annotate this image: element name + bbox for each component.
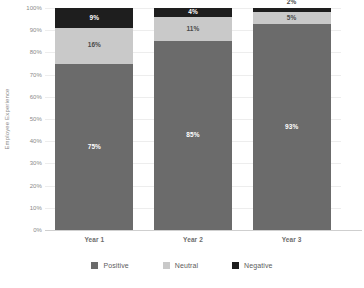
legend-swatch-icon [163,262,170,269]
legend-label: Negative [244,262,272,269]
bar-segment[interactable]: 75% [55,64,133,231]
legend-swatch-icon [232,262,239,269]
stacked-bar-chart: Employee Experience 0%10%20%30%40%50%60%… [0,0,364,288]
y-axis-tick-label: 70% [30,72,42,78]
y-axis-tick-labels: 0%10%20%30%40%50%60%70%80%90%100% [16,8,42,230]
y-axis-tick-label: 10% [30,205,42,211]
bar-segment[interactable]: 5% [253,12,331,23]
bar-segment[interactable]: 16% [55,28,133,64]
bar-segment[interactable]: 4% [154,8,232,17]
bar-segment[interactable]: 11% [154,17,232,41]
plot-wrapper: 0%10%20%30%40%50%60%70%80%90%100% 9%16%7… [16,8,350,238]
bar-group[interactable]: 4%11%85% [154,8,232,230]
y-axis-tick-label: 100% [26,5,42,11]
legend-item[interactable]: Neutral [163,262,198,269]
y-axis-title: Employee Experience [0,0,14,238]
bar-segment[interactable]: 93% [253,24,331,230]
y-axis-title-text: Employee Experience [4,88,10,149]
x-axis-tick-label: Year 2 [183,236,203,243]
bar-segment-label: 9% [90,15,100,22]
y-axis-tick-label: 60% [30,94,42,100]
y-axis-tick-label: 80% [30,49,42,55]
x-axis-line [45,230,362,231]
legend-label: Neutral [175,262,198,269]
y-axis-tick-label: 30% [30,160,42,166]
x-axis-tick-label: Year 3 [282,236,302,243]
legend-item[interactable]: Positive [91,262,128,269]
y-axis-tick-label: 0% [33,227,42,233]
legend-label: Positive [103,262,128,269]
x-axis-tick-label: Year 1 [84,236,104,243]
y-axis-tick-label: 40% [30,138,42,144]
plot-area: 9%16%75%4%11%85%2%5%93% [45,8,341,230]
bar-segment-label: 4% [188,9,198,16]
bar-group[interactable]: 2%5%93% [253,8,331,230]
y-axis-tick-label: 50% [30,116,42,122]
bar-segment-label: 85% [186,132,199,139]
legend-swatch-icon [91,262,98,269]
stacked-bar[interactable]: 4%11%85% [154,8,232,230]
stacked-bar[interactable]: 9%16%75% [55,8,133,230]
bar-segment[interactable]: 9% [55,8,133,28]
bar-segment-label: 93% [285,124,298,131]
bar-group[interactable]: 9%16%75% [55,8,133,230]
bar-segment-label: 11% [187,26,200,33]
y-axis-tick-label: 20% [30,183,42,189]
legend-item[interactable]: Negative [232,262,272,269]
bar-segment-label: 75% [88,144,101,151]
bar-segment-label: 2% [253,0,331,6]
bar-segment-label: 16% [88,42,101,49]
bar-segment[interactable]: 85% [154,41,232,230]
y-axis-tick-label: 90% [30,27,42,33]
chart-legend: PositiveNeutralNegative [0,262,364,269]
stacked-bar[interactable]: 2%5%93% [253,8,331,230]
bar-segment-label: 5% [287,15,297,22]
